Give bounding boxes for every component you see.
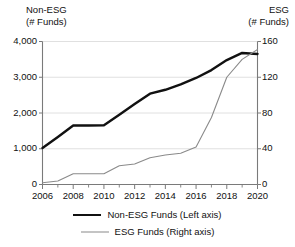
legend-item: Non-ESG Funds (Left axis) <box>0 206 295 223</box>
legend-label-non-esg: Non-ESG Funds (Left axis) <box>107 209 221 220</box>
x-tick-label: 2020 <box>243 191 273 201</box>
y-right-tick-label: 120 <box>262 72 292 82</box>
y-left-tick-label: 4,000 <box>0 36 37 46</box>
y-left-tick-label: 1,000 <box>0 143 37 153</box>
chart-legend: Non-ESG Funds (Left axis) ESG Funds (Rig… <box>0 206 295 240</box>
x-tick-label: 2012 <box>120 191 150 201</box>
legend-line-esg-icon <box>81 228 109 236</box>
x-tick-label: 2018 <box>212 191 242 201</box>
chart-container: Non-ESG (# Funds) ESG (# Funds) 01,0002,… <box>0 0 295 247</box>
data-series <box>43 50 258 183</box>
legend-item: ESG Funds (Right axis) <box>0 223 295 240</box>
x-tick-label: 2014 <box>150 191 180 201</box>
y-left-tick-label: 2,000 <box>0 108 37 118</box>
x-tick-label: 2008 <box>58 191 88 201</box>
x-tick-label: 2006 <box>28 191 58 201</box>
y-right-tick-label: 80 <box>262 108 292 118</box>
y-right-tick-label: 40 <box>262 143 292 153</box>
legend-line-non-esg-icon <box>73 211 101 219</box>
x-tick-label: 2010 <box>89 191 119 201</box>
y-left-tick-label: 3,000 <box>0 72 37 82</box>
y-left-tick-label: 0 <box>0 179 37 189</box>
legend-label-esg: ESG Funds (Right axis) <box>115 226 215 237</box>
gridlines <box>43 42 258 185</box>
y-right-tick-label: 160 <box>262 36 292 46</box>
x-tick-label: 2016 <box>181 191 211 201</box>
y-right-tick-label: 0 <box>262 179 292 189</box>
